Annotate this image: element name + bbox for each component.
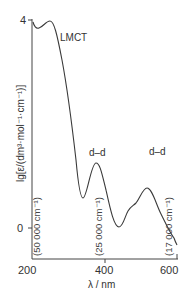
- spectrum-curve: [33, 21, 177, 245]
- x-tick-label-600: 600: [160, 264, 178, 276]
- annotation-dd-2: d–d: [149, 146, 166, 157]
- wavenumber-17000: (17 000 cm⁻¹): [163, 197, 174, 256]
- y-axis-title: lg[ε/(dm³·mol⁻¹·cm⁻¹)]: [15, 85, 26, 182]
- x-tick-label-200: 200: [18, 264, 36, 276]
- annotation-lmct: LMCT: [60, 32, 87, 43]
- spectrum-chart: 4 0 200 400 600 λ / nm lg[ε/(dm³·mol⁻¹·c…: [0, 0, 192, 298]
- x-axis-title: λ / nm: [88, 279, 115, 290]
- y-tick-label-0: 0: [17, 222, 23, 234]
- x-tick-label-400: 400: [95, 264, 113, 276]
- wavenumber-50000: (50 000 cm⁻¹): [31, 197, 42, 256]
- annotation-dd-1: d–d: [89, 147, 106, 158]
- y-tick-label-4: 4: [20, 14, 26, 26]
- wavenumber-25000: (25 000 cm⁻¹): [93, 197, 104, 256]
